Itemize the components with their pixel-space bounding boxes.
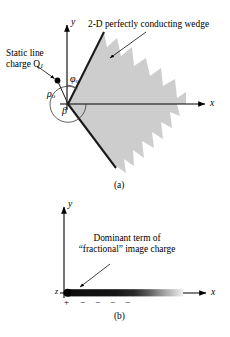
panel-a-x-axis-label: x [210,98,214,109]
charge-sign-1: − [80,297,85,307]
static-line-charge-text: Static line charge Q [6,48,44,69]
beta-angle-label: β [62,105,67,116]
charge-sign-0: + [64,297,69,307]
conducting-wedge-label: 2-D perfectly conducting wedge [88,19,209,30]
rho-radial-line [58,81,69,105]
figure-container: Static line charge Q1 2-D perfectly cond… [0,0,230,337]
phi-angle-label: φo [70,73,79,85]
image-charge-annotation: Dominant term of “fractional” image char… [62,233,192,254]
static-line-charge-subscript: 1 [40,62,43,69]
panel-a-y-axis-label: y [71,17,75,28]
panel-b-x-axis-label: x [211,287,215,298]
panel-b-caption: (b) [114,311,125,322]
conducting-wedge-shape [68,33,186,173]
panel-b-y-axis-label: y [68,199,72,210]
image-charge-origin-dot [64,289,72,297]
charge-sign-3: − [110,297,115,307]
charge-sign-2: − [95,297,100,307]
charge-sign-4: − [125,297,130,307]
panel-b-origin-label: z [55,288,58,297]
static-line-charge-dot [55,78,61,84]
rho-distance-label: ρo [47,88,55,100]
image-charge-leader [80,264,110,287]
static-line-charge-label: Static line charge Q1 [6,48,68,69]
rho-subscript: o [52,92,55,99]
image-charge-annotation-line1: Dominant term of [93,233,160,243]
phi-subscript: o [76,77,79,84]
fractional-image-charge-bar [68,289,183,296]
panel-a-caption: (a) [114,180,124,191]
image-charge-annotation-line2: “fractional” image charge [79,244,176,254]
